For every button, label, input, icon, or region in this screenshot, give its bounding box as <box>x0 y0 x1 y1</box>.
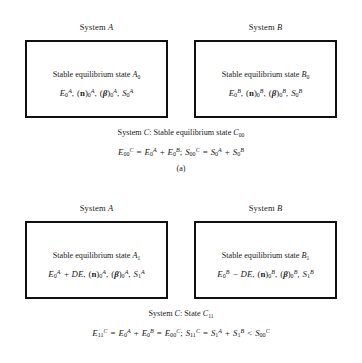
eq-op-4: = <box>203 146 208 156</box>
system-a-entropy-sup: A <box>130 88 134 94</box>
system-a-header: SystemA <box>25 22 168 32</box>
system-b-parameters-base-b: β <box>283 268 288 278</box>
comma-5: , <box>264 87 266 97</box>
comma-7: , <box>83 268 85 278</box>
system-a-state-subscript: 0 <box>137 74 140 80</box>
system-a-state-text-b: Stable equilibrium state <box>53 251 131 260</box>
system-a-state-text: Stable equilibrium state <box>53 70 131 79</box>
system-b-box-content-b: Stable equilibrium stateB1 E0B− DE,(n)0B… <box>196 250 335 284</box>
system-a-parameters-base-b: β <box>114 268 119 278</box>
system-c-title-rest-a: : Stable equilibrium state <box>149 128 231 137</box>
eq-op-6: = <box>111 327 116 337</box>
system-b-state-subscript-b: 1 <box>306 255 309 261</box>
figure-panel-a: SystemA SystemB Stable equilibrium state… <box>0 0 362 182</box>
eq-op-3: ; <box>180 146 182 156</box>
eq-op-9: ; <box>180 327 182 337</box>
system-a-box-content-b: Stable equilibrium stateA1 E0A+ DE,(n)0A… <box>27 250 166 284</box>
comma-9: , <box>128 268 130 278</box>
system-b-composition-base: n <box>249 87 254 97</box>
system-b-properties-line-b: E0B− DE,(n)0B,(β)0B,S1B <box>196 265 335 284</box>
system-b-state-subscript: 0 <box>306 74 309 80</box>
system-a-box-b: Stable equilibrium stateA1 E0A+ DE,(n)0A… <box>25 221 168 299</box>
comma-6: , <box>286 87 288 97</box>
system-c-block-b: SystemC: StateC11 E11C=E0A+E0B=E00C;S11C… <box>0 307 362 343</box>
system-c-equation-a: E00C=E0A+E0B;S00C=S0A+S0B <box>0 143 362 162</box>
comma-11: , <box>275 268 277 278</box>
comma-1: , <box>72 87 74 97</box>
eq-op-7: + <box>134 327 139 337</box>
system-a-properties-line: E0A,(n)0A,(β)0A,S0A <box>27 84 166 103</box>
system-a-energy-delta-b: + DE <box>63 268 83 278</box>
system-a-energy-sup-b: A <box>57 269 61 275</box>
eq-op-10: = <box>203 327 208 337</box>
system-b-header-prefix: System <box>249 22 275 32</box>
system-b-state-line: Stable equilibrium stateB0 <box>196 69 335 83</box>
system-c-title-state-sub-a: 00 <box>239 132 245 138</box>
system-b-header-symbol: B <box>277 22 282 32</box>
comma-2: , <box>95 87 97 97</box>
system-b-composition-base-b: n <box>260 268 265 278</box>
figure-label-a: (a) <box>0 164 362 173</box>
system-b-box-b: Stable equilibrium stateB1 E0B− DE,(n)0B… <box>194 221 337 299</box>
system-b-entropy-sup-b: B <box>310 269 314 275</box>
system-a-box-content: Stable equilibrium stateA0 E0A,(n)0A,(β)… <box>27 69 166 103</box>
system-b-box-content: Stable equilibrium stateB0 E0B,(n)0B,(β)… <box>196 69 335 103</box>
comma-12: , <box>297 268 299 278</box>
system-b-header: SystemB <box>194 22 337 32</box>
system-c-title-prefix-a: System <box>118 128 142 137</box>
eq-op-2: + <box>160 146 165 156</box>
system-a-header-symbol: A <box>108 22 113 32</box>
system-c-title-a: SystemC: Stable equilibrium stateC00 <box>0 126 362 142</box>
system-a-state-line: Stable equilibrium stateA0 <box>27 69 166 83</box>
system-c-block-a: SystemC: Stable equilibrium stateC00 E00… <box>0 126 362 162</box>
system-c-title-rest-b: : State <box>180 309 201 318</box>
system-a-state-line-b: Stable equilibrium stateA1 <box>27 250 166 264</box>
system-b-header-prefix-b: System <box>249 203 275 213</box>
system-b-energy-delta-b: − DE <box>232 268 252 278</box>
system-c-title-b: SystemC: StateC11 <box>0 307 362 323</box>
eq-op-11: + <box>225 327 230 337</box>
eq-op-8: = <box>157 327 162 337</box>
system-a-parameters-base: β <box>103 87 108 97</box>
system-a-entropy-sup-b: A <box>141 269 145 275</box>
system-a-box: Stable equilibrium stateA0 E0A,(n)0A,(β)… <box>25 40 168 118</box>
system-a-header-b: SystemA <box>25 203 168 213</box>
comma-4: , <box>241 87 243 97</box>
comma-3: , <box>117 87 119 97</box>
system-b-entropy-sup: B <box>299 88 303 94</box>
system-b-parameters-base: β <box>272 87 277 97</box>
system-c-equation-b: E11C=E0A+E0B=E00C;S11C=S1A+S1B<S00C <box>0 324 362 343</box>
comma-10: , <box>252 268 254 278</box>
eq-op-5: + <box>225 146 230 156</box>
system-b-state-text-b: Stable equilibrium state <box>222 251 300 260</box>
system-b-header-b: SystemB <box>194 203 337 213</box>
system-b-state-line-b: Stable equilibrium stateB1 <box>196 250 335 264</box>
system-a-header-prefix: System <box>80 22 106 32</box>
eq-op-1: = <box>137 146 142 156</box>
system-b-properties-line: E0B,(n)0B,(β)0B,S0B <box>196 84 335 103</box>
system-c-title-prefix-b: System <box>148 309 172 318</box>
figure-panel-b: SystemA SystemB Stable equilibrium state… <box>0 181 362 363</box>
system-a-composition-base-b: n <box>91 268 96 278</box>
system-c-title-state-sub-b: 11 <box>208 313 213 319</box>
eq-op-12: < <box>247 327 252 337</box>
system-a-header-prefix-b: System <box>80 203 106 213</box>
system-a-properties-line-b: E0A+ DE,(n)0A,(β)0A,S1A <box>27 265 166 284</box>
system-a-composition-base: n <box>80 87 85 97</box>
system-a-state-subscript-b: 1 <box>137 255 140 261</box>
system-b-box: Stable equilibrium stateB0 E0B,(n)0B,(β)… <box>194 40 337 118</box>
system-a-header-symbol-b: A <box>108 203 113 213</box>
system-b-state-text: Stable equilibrium state <box>222 70 300 79</box>
system-b-energy-sup-b: B <box>226 269 230 275</box>
comma-8: , <box>106 268 108 278</box>
system-b-header-symbol-b: B <box>277 203 282 213</box>
